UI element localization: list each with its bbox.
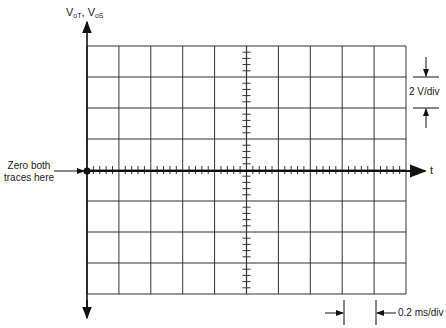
- x-axis-label: t: [430, 164, 433, 176]
- zero-annotation-line2: traces here: [4, 172, 54, 184]
- zero-point-dot: [84, 168, 91, 175]
- graticule-diagram: [0, 0, 446, 328]
- y-axis-label: VoT, VoS: [66, 6, 104, 20]
- zero-annotation-line1: Zero both: [6, 160, 52, 172]
- vertical-scale-label: 2 V/div: [409, 86, 440, 98]
- horizontal-scale-label: 0.2 ms/div: [398, 307, 444, 319]
